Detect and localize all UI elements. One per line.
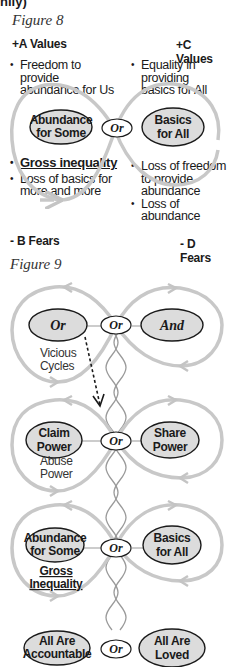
svg-text:Power: Power xyxy=(37,440,72,454)
fig9-node-or-center-2: Or xyxy=(101,432,131,450)
fig9-node-abundance-for-some: Abundance for Some xyxy=(24,528,87,562)
svg-text:Or: Or xyxy=(109,434,123,448)
fig9-node-all-are-loved: All Are Loved xyxy=(139,629,205,667)
svg-text:Loved: Loved xyxy=(155,648,189,662)
svg-text:Basics: Basics xyxy=(154,531,192,545)
svg-text:Or: Or xyxy=(109,318,123,332)
svg-text:for All: for All xyxy=(157,127,189,141)
fig9-node-or-center-3: Or xyxy=(101,539,131,557)
gross-caption-2: Inequality xyxy=(29,577,83,591)
diagram-canvas: Abundance for Some Or Basics for All xyxy=(0,0,229,667)
svg-text:for All: for All xyxy=(156,545,188,559)
svg-text:Or: Or xyxy=(109,642,123,656)
fig9-node-or-left: Or xyxy=(29,309,87,341)
abuse-caption-1: Abuse xyxy=(40,454,73,468)
svg-text:for Some: for Some xyxy=(36,126,86,140)
twisted-rope-connector xyxy=(106,330,126,630)
svg-text:And: And xyxy=(159,318,185,333)
svg-text:for Some: for Some xyxy=(30,544,80,558)
vicious-caption-2: Cycles xyxy=(40,359,75,373)
svg-text:Or: Or xyxy=(110,121,124,135)
dashed-arrow-icon xyxy=(85,337,104,406)
fig9-node-all-are-accountable: All Are Accountable xyxy=(23,631,92,665)
fig9-node-claim-power: Claim Power xyxy=(26,422,82,458)
vicious-caption-1: Vicious xyxy=(40,346,77,360)
figure8-node-basics-for-all: Basics for All xyxy=(142,108,204,146)
svg-text:Abundance: Abundance xyxy=(30,113,93,127)
svg-text:Power: Power xyxy=(153,440,188,454)
svg-text:Abundance: Abundance xyxy=(24,531,87,545)
svg-text:All Are: All Are xyxy=(39,634,76,648)
svg-text:Or: Or xyxy=(50,318,66,333)
fig9-node-or-center-4: Or xyxy=(101,640,131,658)
svg-text:All Are: All Are xyxy=(154,634,191,648)
svg-text:Accountable: Accountable xyxy=(23,647,92,661)
fig9-node-or-center-1: Or xyxy=(101,316,131,334)
svg-text:Basics: Basics xyxy=(155,113,193,127)
svg-text:Share: Share xyxy=(154,426,186,440)
figure8-node-or: Or xyxy=(102,119,132,137)
fig9-node-and: And xyxy=(141,309,203,341)
fig9-node-basics-for-all: Basics for All xyxy=(143,526,201,564)
abuse-caption-2: Power xyxy=(40,467,73,481)
fig9-node-share-power: Share Power xyxy=(141,422,199,458)
gross-caption-1: Gross xyxy=(39,564,73,578)
figure8-node-abundance-for-some: Abundance for Some xyxy=(30,110,93,144)
svg-text:Or: Or xyxy=(109,541,123,555)
svg-text:Claim: Claim xyxy=(38,426,69,440)
